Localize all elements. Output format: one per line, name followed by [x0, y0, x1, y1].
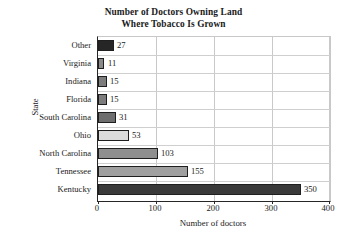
bar-value-north-carolina: 103 [161, 148, 174, 159]
bar-north-carolina [98, 148, 158, 159]
gridline-y-1 [98, 55, 330, 56]
x-tick-label-100: 100 [135, 203, 175, 214]
bar-indiana [98, 76, 107, 87]
bar-value-tennessee: 155 [191, 166, 204, 177]
x-axis-title: Number of doctors [97, 218, 329, 229]
bar-value-kentucky: 350 [304, 184, 317, 195]
y-tick-label-virginia: Virginia [15, 58, 91, 68]
bar-value-florida: 15 [110, 94, 119, 105]
bar-kentucky [98, 184, 301, 195]
bar-tennessee [98, 166, 188, 177]
x-tick-label-300: 300 [251, 203, 291, 214]
gridline-y-8 [98, 181, 330, 182]
bar-south-carolina [98, 112, 116, 123]
plot-inner: 27 11 15 15 31 53 103 155 350 [98, 37, 330, 201]
x-tick-label-group: 0 100 200 300 400 [97, 203, 329, 215]
gridline-y-7 [98, 163, 330, 164]
y-tick-label-group: Other Virginia Indiana Florida South Car… [18, 36, 94, 200]
y-tick-label-ohio: Ohio [15, 130, 91, 140]
x-tick-label-400: 400 [308, 203, 347, 214]
plot-area: 27 11 15 15 31 53 103 155 350 [97, 36, 331, 202]
y-tick-label-south-carolina: South Carolina [15, 112, 91, 122]
y-tick-label-indiana: Indiana [15, 76, 91, 86]
gridline-y-6 [98, 145, 330, 146]
chart-title-line-1: Number of Doctors Owning Land [0, 7, 347, 19]
bar-florida [98, 94, 107, 105]
chart-title-line-2: Where Tobacco Is Grown [0, 19, 347, 31]
bar-value-ohio: 53 [132, 130, 141, 141]
chart-title: Number of Doctors Owning Land Where Toba… [0, 7, 347, 30]
y-tick-label-kentucky: Kentucky [15, 184, 91, 194]
bar-other [98, 40, 114, 51]
x-tick-label-200: 200 [193, 203, 233, 214]
gridline-x-200 [214, 37, 215, 201]
gridline-y-3 [98, 91, 330, 92]
bar-value-virginia: 11 [108, 58, 116, 69]
gridline-y-5 [98, 127, 330, 128]
y-tick-label-tennessee: Tennessee [15, 166, 91, 176]
gridline-x-400 [329, 37, 330, 201]
x-tick-label-0: 0 [77, 203, 117, 214]
y-tick-label-north-carolina: North Carolina [15, 148, 91, 158]
gridline-x-300 [272, 37, 273, 201]
bar-ohio [98, 130, 129, 141]
bar-value-indiana: 15 [110, 76, 119, 87]
y-tick-label-florida: Florida [15, 94, 91, 104]
bar-value-south-carolina: 31 [119, 112, 128, 123]
bar-virginia [98, 58, 104, 69]
y-tick-label-other: Other [15, 40, 91, 50]
gridline-y-2 [98, 73, 330, 74]
gridline-y-4 [98, 109, 330, 110]
bar-value-other: 27 [117, 40, 126, 51]
bar-chart-figure: Number of Doctors Owning Land Where Toba… [0, 0, 347, 240]
